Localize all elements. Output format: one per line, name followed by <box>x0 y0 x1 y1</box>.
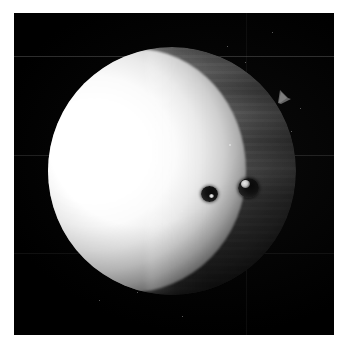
background-speck <box>300 108 301 109</box>
limb-notch <box>278 88 292 104</box>
planet-disk <box>48 47 296 295</box>
background-speck <box>99 300 100 301</box>
astronomical-image-frame <box>14 13 334 335</box>
background-speck <box>272 32 273 33</box>
background-speck <box>291 131 292 132</box>
background-speck <box>227 46 228 47</box>
photo-page <box>0 0 342 351</box>
background-speck <box>182 316 183 317</box>
background-speck <box>245 62 246 63</box>
planet-vignette <box>48 47 296 295</box>
